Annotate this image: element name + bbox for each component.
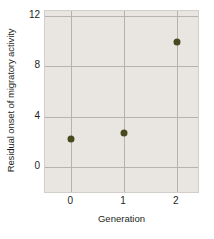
x-axis-tick-labels: 012 xyxy=(44,196,199,210)
data-point xyxy=(173,39,180,46)
gridline-horizontal xyxy=(45,66,198,67)
scatter-chart-figure: Residual onset of migratory activity 048… xyxy=(0,0,214,239)
plot-area xyxy=(44,10,199,193)
gridline-horizontal xyxy=(45,167,198,168)
x-axis-tick-label: 2 xyxy=(173,196,179,206)
x-axis-title: Generation xyxy=(44,213,199,224)
gridline-vertical xyxy=(124,11,125,192)
x-axis-tick-label: 1 xyxy=(120,196,126,206)
y-axis-tick-label: 12 xyxy=(22,10,40,20)
x-axis-tick-label: 0 xyxy=(68,196,74,206)
y-axis-tick-label: 8 xyxy=(22,60,40,70)
y-axis-tick-label: 0 xyxy=(22,161,40,171)
data-point xyxy=(121,129,128,136)
gridline-horizontal xyxy=(45,117,198,118)
gridline-horizontal xyxy=(45,16,198,17)
y-axis-tick-labels: 04812 xyxy=(22,0,40,239)
y-axis-title: Residual onset of migratory activity xyxy=(0,0,22,200)
data-point xyxy=(68,136,75,143)
gridline-vertical xyxy=(71,11,72,192)
y-axis-tick-label: 4 xyxy=(22,111,40,121)
y-axis-title-text: Residual onset of migratory activity xyxy=(6,28,17,172)
